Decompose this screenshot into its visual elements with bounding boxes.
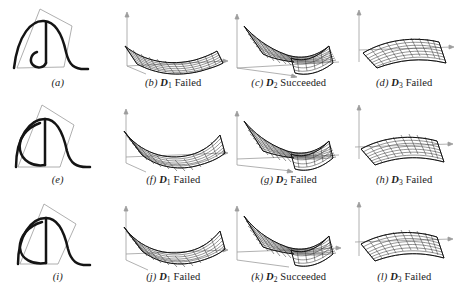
- caption-status-c: Succeeded: [280, 77, 326, 88]
- panel-caption-c: (c) D2 Succeeded: [251, 77, 326, 91]
- panel-l: (l) D3 Failed: [347, 194, 462, 291]
- surface-plot-gentle-sheet: [347, 97, 462, 175]
- figure-grid: (a): [0, 0, 462, 291]
- caption-index-g: (g): [261, 174, 274, 185]
- caption-dataset-g: D2: [276, 174, 288, 185]
- mesh-surface: [244, 121, 336, 170]
- caption-dataset-b: D1: [160, 77, 172, 88]
- surface-outline: [244, 121, 333, 170]
- control-polygon: [17, 9, 72, 68]
- panel-d: (d) D3 Failed: [347, 0, 462, 97]
- panel-caption-k: (k) D2 Succeeded: [251, 271, 326, 285]
- mesh-surface: [244, 216, 336, 266]
- caption-dataset-l: D3: [390, 271, 402, 282]
- axes: [235, 14, 339, 78]
- panel-h: (h) D3 Failed: [347, 97, 462, 194]
- axes: [357, 10, 454, 62]
- surface-plot-gentle-sheet: [347, 0, 462, 78]
- panel-caption-i: (i): [53, 271, 63, 282]
- surface-plot-saddle-curled: [116, 97, 232, 175]
- figure-row-1: (a): [0, 0, 462, 97]
- figure-row-3: (i): [0, 194, 462, 291]
- axes: [355, 105, 453, 159]
- caption-dataset-c: D2: [266, 77, 278, 88]
- caption-index-j: (j): [146, 271, 156, 282]
- caption-index-h: (h): [376, 174, 389, 185]
- panel-caption-j: (j) D1 Failed: [146, 271, 200, 285]
- caption-status-h: Failed: [406, 174, 433, 185]
- caption-status-g: Failed: [290, 174, 317, 185]
- panel-caption-g: (g) D2 Failed: [261, 174, 317, 188]
- caption-index-l: (l): [377, 271, 387, 282]
- mesh-surface: [361, 230, 444, 261]
- curve-plot-cusp: [0, 0, 116, 78]
- panel-f: (f) D1 Failed: [116, 97, 232, 194]
- axes: [235, 206, 341, 267]
- surface-plot-gentle-sheet: [347, 194, 462, 272]
- caption-status-b: Failed: [175, 77, 202, 88]
- control-polygon: [20, 204, 76, 264]
- caption-index-b: (b): [145, 77, 158, 88]
- caption-index-d: (d): [376, 77, 389, 88]
- bezier-curve: [14, 21, 88, 69]
- caption-index-a: (a): [51, 77, 64, 88]
- figure-row-2: (e): [0, 97, 462, 194]
- caption-status-j: Failed: [173, 271, 200, 282]
- panel-a: (a): [0, 0, 116, 97]
- panel-b: (b) D1 Failed: [116, 0, 232, 97]
- caption-dataset-d: D3: [391, 77, 403, 88]
- caption-dataset-h: D3: [391, 174, 403, 185]
- axes: [235, 111, 339, 173]
- caption-status-l: Failed: [404, 271, 431, 282]
- caption-index-f: (f): [146, 174, 156, 185]
- surface-plot-butterfly-fold: [231, 0, 347, 78]
- axes: [124, 206, 228, 270]
- panel-caption-d: (d) D3 Failed: [376, 77, 432, 91]
- caption-status-d: Failed: [406, 77, 433, 88]
- panel-c: (c) D2 Succeeded: [231, 0, 347, 97]
- caption-index-e: (e): [52, 174, 64, 185]
- axes: [124, 109, 228, 172]
- panel-caption-f: (f) D1 Failed: [146, 174, 200, 188]
- panel-e: (e): [0, 97, 116, 194]
- surface-outline: [244, 216, 333, 266]
- panel-g: (g) D2 Failed: [231, 97, 347, 194]
- axes: [355, 202, 453, 256]
- panel-j: (j) D1 Failed: [116, 194, 232, 291]
- caption-index-c: (c): [251, 77, 263, 88]
- surface-plot-butterfly-fold: [231, 194, 347, 272]
- panel-caption-l: (l) D3 Failed: [377, 271, 431, 285]
- caption-index-k: (k): [251, 271, 263, 282]
- mesh-surface: [361, 134, 444, 165]
- caption-status-k: Succeeded: [280, 271, 326, 282]
- panel-caption-b: (b) D1 Failed: [145, 77, 201, 91]
- surface-plot-saddle-curled: [116, 194, 232, 272]
- panel-caption-a: (a): [51, 77, 64, 88]
- panel-caption-e: (e): [52, 174, 64, 185]
- surface-plot-flat-warped: [116, 0, 232, 78]
- panel-i: (i): [0, 194, 116, 291]
- caption-dataset-j: D1: [159, 271, 171, 282]
- caption-dataset-f: D1: [159, 174, 171, 185]
- curve-plot-loop-tight: [0, 194, 116, 272]
- caption-status-f: Failed: [173, 174, 200, 185]
- panel-k: (k) D2 Succeeded: [231, 194, 347, 291]
- mesh-surface: [363, 38, 446, 68]
- mesh-surface: [125, 46, 223, 74]
- caption-dataset-k: D2: [266, 271, 278, 282]
- panel-caption-h: (h) D3 Failed: [376, 174, 432, 188]
- curve-plot-loop-wide: [0, 97, 116, 175]
- caption-index-i: (i): [53, 271, 63, 282]
- surface-plot-butterfly-fold: [231, 97, 347, 175]
